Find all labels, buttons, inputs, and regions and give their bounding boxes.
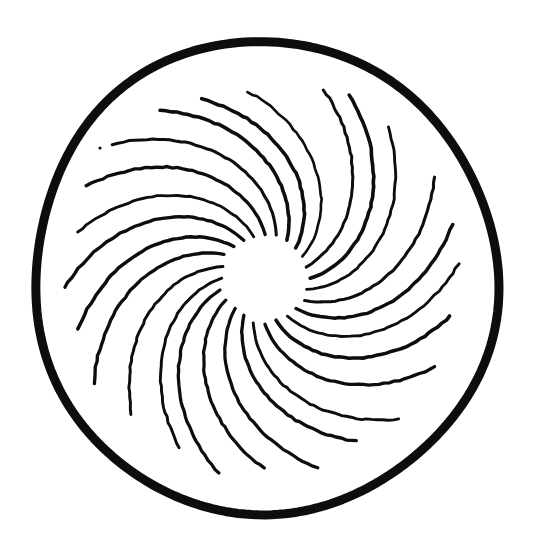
spiral-rosette-figure bbox=[0, 0, 541, 549]
ink-speck bbox=[98, 146, 101, 149]
background bbox=[0, 0, 541, 549]
artboard bbox=[0, 0, 541, 549]
